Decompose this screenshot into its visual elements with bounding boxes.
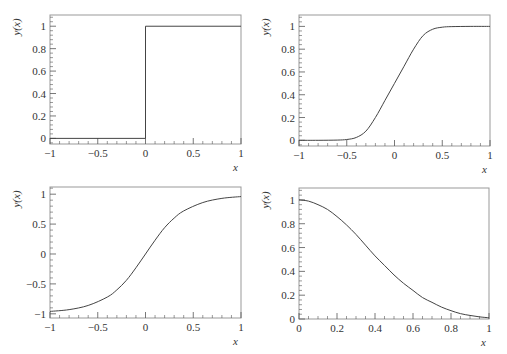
x-tick-label: 0 [143,147,149,159]
data-line [50,197,241,312]
x-tick-label: 0.6 [406,322,420,334]
y-tick-label: 0.6 [281,242,295,254]
y-axis-label: y(x) [10,190,23,208]
y-tick-label: 0.4 [281,265,295,277]
chart-panel-top-right: −1−0.500.5100.20.40.60.81xy(x) [259,15,493,175]
y-tick-label: 0.2 [281,289,295,301]
x-tick-label: 0.4 [368,322,382,334]
data-line [299,200,489,318]
y-tick-label: 0.2 [32,110,46,122]
figure: −1−0.500.5100.20.40.60.81xy(x)−1−0.500.5… [0,0,507,354]
chart-panel-bottom-right: 00.20.40.60.8100.20.40.60.81xy(x) [259,188,492,348]
x-tick-label: 1 [486,322,492,334]
x-axis-label: x [232,161,238,173]
y-tick-label: 1 [290,20,296,32]
chart-grid: −1−0.500.5100.20.40.60.81xy(x)−1−0.500.5… [0,0,507,354]
y-tick-label: 1 [41,20,47,32]
x-tick-label: −1 [293,149,305,161]
y-tick-label: 0 [41,132,47,144]
data-line [299,26,490,140]
x-tick-label: 0.5 [186,147,200,159]
y-tick-label: 0.2 [281,112,295,124]
y-tick-label: 0 [290,134,296,146]
x-tick-label: 0 [296,322,302,334]
x-tick-label: 0.5 [186,321,200,333]
x-tick-label: −1 [44,147,56,159]
y-tick-label: −1 [34,308,46,320]
y-tick-label: 0.4 [32,88,46,100]
y-tick-label: 0.5 [32,218,46,230]
data-line [50,26,241,138]
x-tick-label: −1 [44,321,56,333]
x-tick-label: 1 [238,321,244,333]
x-tick-label: 0 [392,149,398,161]
x-tick-label: −0.5 [88,147,108,159]
y-axis-label: y(x) [259,18,272,36]
y-axis-label: y(x) [10,18,23,36]
x-tick-label: 0.5 [435,149,449,161]
y-tick-label: 1 [290,194,296,206]
y-tick-label: 0 [41,248,47,260]
plot-frame [299,188,489,319]
x-tick-label: 0 [143,321,149,333]
x-axis-label: x [232,335,238,347]
y-axis-label: y(x) [259,191,272,209]
y-tick-label: −0.5 [26,278,46,290]
x-axis-label: x [480,336,486,348]
chart-panel-top-left: −1−0.500.5100.20.40.60.81xy(x) [10,15,244,173]
y-tick-label: 0 [290,313,296,325]
chart-panel-bottom-left: −1−0.500.51−1−0.500.51xy(x) [10,187,244,347]
y-tick-label: 0.8 [281,43,295,55]
y-tick-label: 1 [41,188,47,200]
x-tick-label: 1 [487,149,493,161]
plot-frame [50,187,241,318]
x-tick-label: 0.8 [444,322,458,334]
x-tick-label: −0.5 [337,149,357,161]
y-tick-label: 0.4 [281,89,295,101]
x-axis-label: x [481,163,487,175]
x-tick-label: 0.2 [330,322,344,334]
y-tick-label: 0.8 [281,218,295,230]
y-tick-label: 0.8 [32,43,46,55]
x-tick-label: 1 [238,147,244,159]
y-tick-label: 0.6 [32,65,46,77]
x-tick-label: −0.5 [88,321,108,333]
y-tick-label: 0.6 [281,66,295,78]
plot-frame [299,15,490,146]
